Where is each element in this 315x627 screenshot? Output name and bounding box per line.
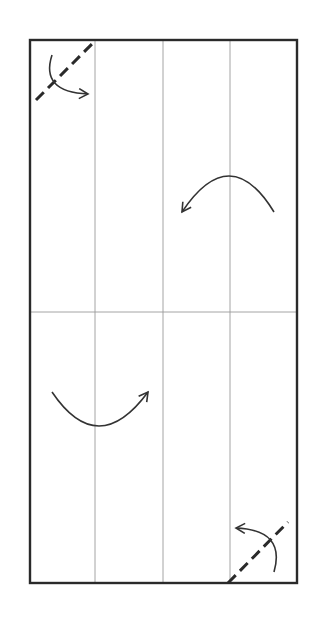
lower-flap-arrow-icon <box>52 392 148 426</box>
top-left-corner-fold <box>36 41 95 100</box>
origami-diagram <box>0 0 315 627</box>
upper-flap-arrow-icon <box>182 176 274 212</box>
top-left-corner-arrow-icon <box>50 55 88 94</box>
crease-lines <box>30 40 297 583</box>
bottom-right-corner-arrow-icon <box>236 528 276 572</box>
paper-outline <box>30 40 297 583</box>
